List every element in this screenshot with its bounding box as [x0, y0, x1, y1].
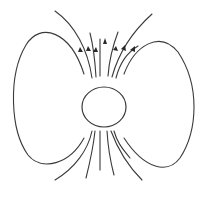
- bottom-field-line-4: [107, 131, 114, 175]
- bottom-field-line-5: [111, 131, 142, 180]
- right-loop-field-line: [124, 41, 194, 167]
- arrow-icon: [86, 46, 91, 51]
- left-loop-field-line: [13, 32, 84, 164]
- arrow-icon: [103, 38, 107, 44]
- top-field-line-1: [55, 11, 92, 78]
- diagram-svg: [0, 0, 205, 204]
- top-field-line-4: [108, 32, 118, 76]
- arrow-icon: [78, 47, 83, 52]
- arrow-icon: [113, 46, 118, 51]
- bottom-field-line-1: [55, 131, 92, 180]
- field-line-diagram: [0, 0, 205, 204]
- sphere: [82, 87, 126, 127]
